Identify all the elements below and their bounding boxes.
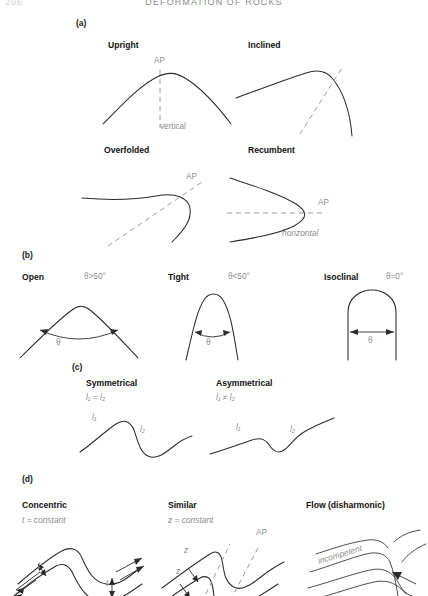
fold-diagram-concentric (12, 528, 152, 596)
angle-symbol-tight: θ (206, 338, 211, 347)
fold-condition-open: θ>50° (84, 272, 106, 281)
fold-condition-tight: θ<50° (228, 272, 250, 281)
fold-diagram-recumbent (228, 172, 358, 244)
fold-title-open: Open (22, 272, 44, 282)
fold-title-similar: Similar (168, 500, 197, 510)
panel-letter-d: (d) (22, 474, 33, 484)
fold-condition-concentric: t = constant (22, 515, 66, 525)
running-head: DEFORMATION OF ROCKS (0, 0, 428, 7)
fold-diagram-inclined (232, 62, 377, 140)
fold-title-isoclinal: Isoclinal (324, 272, 358, 282)
fold-condition-similar: z = constant (168, 515, 213, 525)
fold-title-asymmetrical: Asymmetrical (216, 378, 272, 388)
fold-title-flow: Flow (disharmonic) (306, 500, 385, 510)
fold-title-recumbent: Recumbent (248, 145, 295, 155)
fold-diagram-similar (158, 530, 288, 596)
limb-label-asymmetrical-1: l₁ (236, 422, 241, 432)
fold-condition-asymmetrical: l₁ ≠ l₂ (216, 392, 235, 402)
fold-diagram-isoclinal (322, 288, 422, 360)
figure-page: 206 DEFORMATION OF ROCKS (a) Upright AP … (0, 0, 428, 596)
limb-label-asymmetrical-2: l₂ (290, 424, 295, 434)
measure-label-similar-1: z (184, 545, 188, 555)
panel-letter-b: (b) (22, 250, 33, 260)
angle-symbol-isoclinal: θ (368, 336, 373, 345)
fold-diagram-tight (166, 288, 266, 360)
panel-letter-c: (c) (72, 362, 82, 372)
fold-diagram-overfolded (80, 176, 220, 248)
limb-label-symmetrical-2: l₂ (140, 424, 145, 434)
fold-title-tight: Tight (168, 272, 189, 282)
measure-label-concentric-1: t (38, 560, 40, 570)
fold-diagram-asymmetrical (208, 414, 338, 462)
fold-title-concentric: Concentric (22, 500, 67, 510)
measure-label-concentric-2: t (106, 578, 108, 588)
limb-label-symmetrical-1: l₁ (92, 412, 97, 422)
fold-title-inclined: Inclined (248, 40, 280, 50)
fold-condition-symmetrical: l₁ = l₂ (86, 392, 105, 402)
fold-title-overfolded: Overfolded (104, 145, 149, 155)
measure-label-similar-2: z (176, 566, 180, 576)
fold-condition-isoclinal: θ=0° (386, 272, 403, 281)
angle-symbol-open: θ (56, 338, 61, 347)
fold-title-symmetrical: Symmetrical (86, 378, 137, 388)
panel-letter-a: (a) (76, 18, 86, 28)
fold-diagram-open (18, 292, 143, 360)
fold-diagram-upright (95, 62, 235, 134)
fold-title-upright: Upright (108, 40, 139, 50)
